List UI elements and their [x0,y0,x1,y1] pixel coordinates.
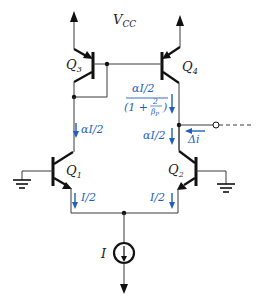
svg-text:2: 2 [152,97,158,106]
svg-text:αI/2: αI/2 [132,82,154,95]
circuit-diagram: VCC Q3 Q4 [0,0,257,303]
q4-current-annotation: αI/2 (1 + 2 βP ) [124,82,175,117]
q4-label: Q4 [182,59,198,76]
q3-label: Q3 [66,57,82,74]
q2-label: Q2 [168,162,184,179]
current-source [114,243,134,294]
q2-emitter-current: I/2 [149,191,175,209]
svg-text:Δi: Δi [187,133,199,146]
tail-wire [71,211,178,243]
transistor-q1 [22,152,73,213]
svg-text:I/2: I/2 [80,191,96,204]
current-direction-icon [121,256,127,262]
q2-collector-current: αI/2 [143,128,175,145]
vcc-label: VCC [113,12,136,29]
svg-text:αI/2: αI/2 [81,123,103,136]
transistor-q2 [177,125,226,213]
q1-emitter-current: I/2 [72,191,96,209]
delta-i-annotation: Δi [185,128,205,146]
output-node [177,122,252,128]
svg-text:αI/2: αI/2 [143,129,165,142]
ground-icon-right [217,184,235,192]
current-source-label: I [100,246,107,261]
ground-icon-left [13,180,31,188]
q1-collector-current: αI/2 [73,123,103,138]
svg-text:): ) [162,101,167,114]
output-terminal [213,122,219,128]
svg-text:βP: βP [150,107,159,117]
vcc-arrow-left [70,11,78,49]
q1-label: Q1 [66,163,82,180]
ground-arrow-icon [120,284,128,294]
svg-text:I/2: I/2 [149,191,165,204]
vcc-arrow-right [176,15,184,47]
svg-text:(1 +: (1 + [124,101,148,114]
